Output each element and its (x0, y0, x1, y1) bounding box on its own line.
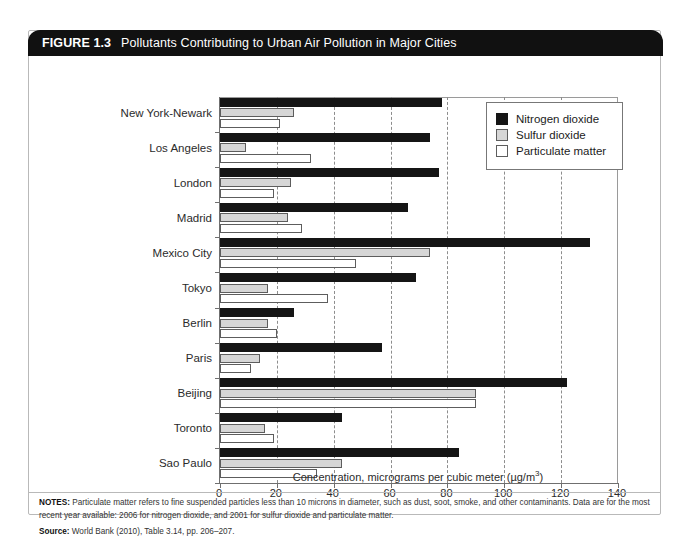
legend-item-sulfur-dioxide: Sulfur dioxide (496, 129, 613, 141)
notes-block: NOTES: Particulate matter refers to fine… (39, 497, 654, 539)
y-axis-label-madrid: Madrid (177, 212, 212, 224)
y-axis-label-tokyo: Tokyo (182, 282, 212, 294)
notes-line-1: Particulate matter refers to fine suspen… (72, 498, 570, 507)
legend-label-nitrogen-dioxide: Nitrogen dioxide (516, 113, 599, 125)
x-axis-title-tail: ) (540, 471, 544, 483)
bar-madrid-sulfur-dioxide (220, 213, 288, 222)
bar-toronto-nitrogen-dioxide (220, 413, 342, 422)
bar-beijing-sulfur-dioxide (220, 389, 476, 398)
bar-london-particulate-matter (220, 189, 274, 198)
bar-toronto-sulfur-dioxide (220, 424, 265, 433)
y-axis-label-berlin: Berlin (183, 317, 212, 329)
source-paragraph: Source: World Bank (2010), Table 3.14, p… (39, 526, 654, 539)
bar-mexico-city-particulate-matter (220, 259, 356, 268)
bar-los-angeles-sulfur-dioxide (220, 143, 246, 152)
figure-number: FIGURE 1.3 (42, 36, 111, 50)
notes-divider (29, 492, 660, 493)
figure-panel: FIGURE 1.3 Pollutants Contributing to Ur… (28, 30, 661, 515)
bar-paris-sulfur-dioxide (220, 354, 260, 363)
source-label: Source: (39, 527, 69, 536)
bar-berlin-nitrogen-dioxide (220, 308, 294, 317)
gridline-40 (334, 97, 335, 483)
figure-title: Pollutants Contributing to Urban Air Pol… (121, 36, 457, 50)
bar-mexico-city-nitrogen-dioxide (220, 238, 590, 247)
chart-area: New York-NewarkLos AngelesLondonMadridMe… (29, 57, 662, 492)
y-axis-label-toronto: Toronto (174, 422, 212, 434)
bar-toronto-particulate-matter (220, 434, 274, 443)
bar-sao-paulo-nitrogen-dioxide (220, 448, 459, 457)
gridline-80 (447, 97, 448, 483)
bar-berlin-sulfur-dioxide (220, 319, 268, 328)
bar-tokyo-nitrogen-dioxide (220, 273, 416, 282)
legend-swatch-particulate-matter (496, 145, 508, 157)
notes-paragraph: NOTES: Particulate matter refers to fine… (39, 497, 654, 522)
bar-beijing-particulate-matter (220, 399, 476, 408)
legend-swatch-nitrogen-dioxide (496, 113, 508, 125)
bar-los-angeles-nitrogen-dioxide (220, 133, 430, 142)
source-text: World Bank (2010), Table 3.14, pp. 206–2… (72, 527, 235, 536)
y-axis-label-mexico-city: Mexico City (153, 247, 212, 259)
bar-new-york-newark-nitrogen-dioxide (220, 98, 442, 107)
y-tick-10 (215, 483, 220, 484)
bar-madrid-particulate-matter (220, 224, 302, 233)
legend-swatch-sulfur-dioxide (496, 129, 508, 141)
figure-header: FIGURE 1.3 Pollutants Contributing to Ur… (28, 30, 663, 56)
bar-london-sulfur-dioxide (220, 178, 291, 187)
gridline-60 (391, 97, 392, 483)
x-axis-title: Concentration, micrograms per cubic mete… (219, 469, 617, 483)
legend-item-particulate-matter: Particulate matter (496, 145, 613, 157)
bar-los-angeles-particulate-matter (220, 154, 311, 163)
y-axis-label-new-york-newark: New York-Newark (121, 107, 212, 119)
notes-label: NOTES: (39, 498, 70, 507)
y-axis-label-paris: Paris (186, 352, 212, 364)
legend-item-nitrogen-dioxide: Nitrogen dioxide (496, 113, 613, 125)
legend-label-particulate-matter: Particulate matter (516, 145, 606, 157)
bar-paris-particulate-matter (220, 364, 251, 373)
y-axis-label-sao-paulo: Sao Paulo (159, 457, 212, 469)
bar-beijing-nitrogen-dioxide (220, 378, 567, 387)
chart-legend: Nitrogen dioxide Sulfur dioxide Particul… (486, 102, 623, 170)
bar-paris-nitrogen-dioxide (220, 343, 382, 352)
bar-berlin-particulate-matter (220, 329, 277, 338)
bar-tokyo-particulate-matter (220, 294, 328, 303)
bar-new-york-newark-sulfur-dioxide (220, 108, 294, 117)
y-axis-label-london: London (174, 177, 212, 189)
bar-sao-paulo-sulfur-dioxide (220, 459, 342, 468)
y-axis-label-los-angeles: Los Angeles (149, 142, 212, 154)
bar-madrid-nitrogen-dioxide (220, 203, 408, 212)
y-axis-label-beijing: Beijing (177, 387, 212, 399)
bar-new-york-newark-particulate-matter (220, 119, 280, 128)
x-axis-title-text: Concentration, micrograms per cubic mete… (293, 471, 535, 483)
legend-label-sulfur-dioxide: Sulfur dioxide (516, 129, 586, 141)
bar-london-nitrogen-dioxide (220, 168, 439, 177)
bar-mexico-city-sulfur-dioxide (220, 248, 430, 257)
bar-tokyo-sulfur-dioxide (220, 284, 268, 293)
